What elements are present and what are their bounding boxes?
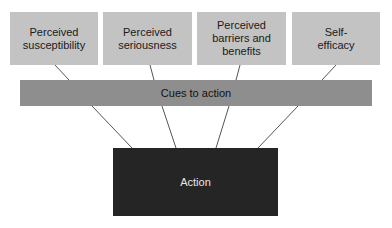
- connector-selfefficacy-to-cues: [322, 65, 336, 80]
- cues-to-action-bar: Cues to action: [20, 80, 372, 106]
- connector-seriousness-to-cues: [150, 65, 154, 80]
- connector-cues-to-action-3: [216, 106, 229, 148]
- action-label: Action: [180, 176, 211, 189]
- connector-susceptibility-to-cues: [55, 65, 69, 80]
- connector-cues-to-action-2: [162, 106, 176, 148]
- factor-label: Perceived barriers and benefits: [201, 19, 282, 58]
- factor-label: Perceived susceptibility: [14, 26, 94, 52]
- factor-label: Self-efficacy: [316, 26, 356, 52]
- cues-label: Cues to action: [161, 87, 231, 100]
- factor-box-perceived-seriousness: Perceived seriousness: [103, 12, 192, 65]
- connector-cues-to-action-4: [258, 106, 298, 148]
- connector-barriers-to-cues: [236, 65, 240, 80]
- action-box: Action: [113, 148, 278, 216]
- factor-box-self-efficacy: Self-efficacy: [292, 12, 380, 65]
- factor-box-perceived-susceptibility: Perceived susceptibility: [10, 12, 98, 65]
- factor-label: Perceived seriousness: [107, 26, 188, 52]
- connector-cues-to-action-1: [92, 106, 132, 148]
- factor-box-perceived-barriers-and-benefits: Perceived barriers and benefits: [197, 12, 286, 65]
